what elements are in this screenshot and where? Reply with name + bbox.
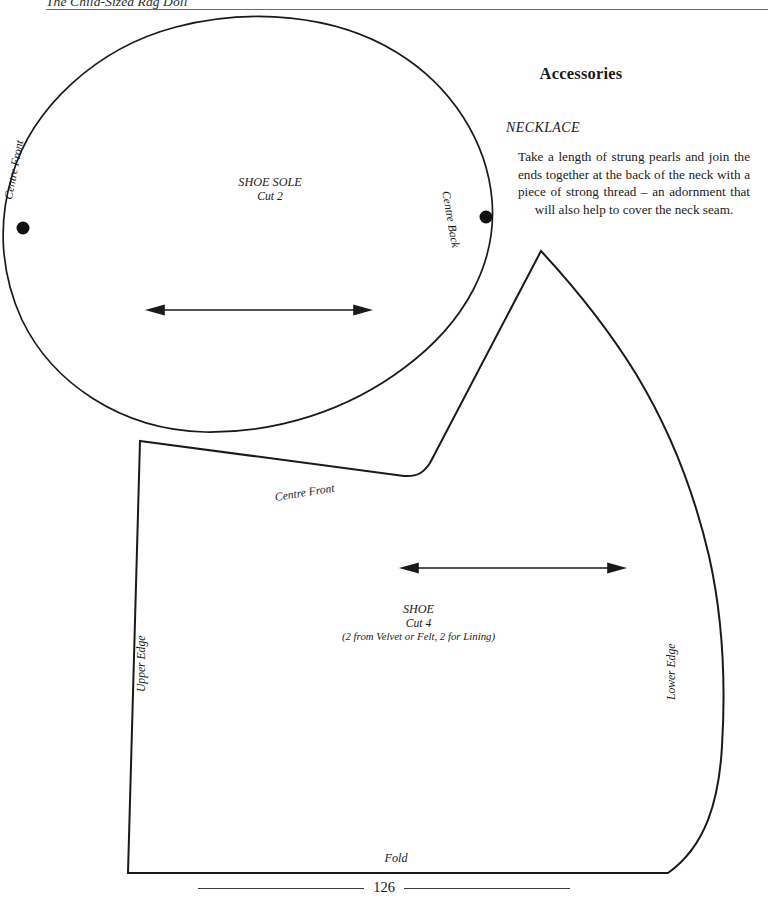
shoe-upper-edge-label: Upper Edge xyxy=(135,636,148,692)
shoe-cut: Cut 4 xyxy=(316,617,521,631)
shoe-outline xyxy=(128,251,723,873)
centre-front-mark xyxy=(17,222,30,235)
pattern-page: The Child-Sized Rag Doll Accessories NEC… xyxy=(0,0,768,898)
page-footer: 126 xyxy=(0,878,768,898)
shoe-sole-outline xyxy=(3,17,492,433)
shoe-fold-label: Fold xyxy=(346,851,446,866)
shoe-label: SHOE Cut 4 (2 from Velvet or Felt, 2 for… xyxy=(316,603,521,644)
pattern-artwork xyxy=(0,0,768,898)
shoe-fabric-note: (2 from Velvet or Felt, 2 for Lining) xyxy=(316,630,521,644)
shoe-grain-arrow xyxy=(402,564,624,573)
shoe-sole-cut: Cut 2 xyxy=(170,190,370,204)
page-number: 126 xyxy=(364,879,404,896)
shoe-name: SHOE xyxy=(316,603,521,617)
shoe-lower-edge-label: Lower Edge xyxy=(665,644,678,700)
centre-back-mark xyxy=(480,211,493,224)
necklace-body-text: Take a length of strung pearls and join … xyxy=(518,148,750,218)
footer-rule-right xyxy=(404,888,570,889)
footer-rule-left xyxy=(198,888,364,889)
shoe-sole-name: SHOE SOLE xyxy=(170,176,370,190)
necklace-heading: NECKLACE xyxy=(506,120,580,136)
shoe-sole-label: SHOE SOLE Cut 2 xyxy=(170,176,370,203)
accessories-heading: Accessories xyxy=(476,64,686,84)
sole-grain-arrow xyxy=(148,306,370,315)
